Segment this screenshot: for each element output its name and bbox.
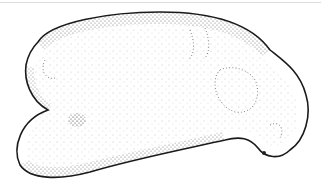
dark-spot <box>68 113 86 127</box>
embryo-illustration <box>0 0 321 195</box>
head-dot <box>262 151 266 155</box>
